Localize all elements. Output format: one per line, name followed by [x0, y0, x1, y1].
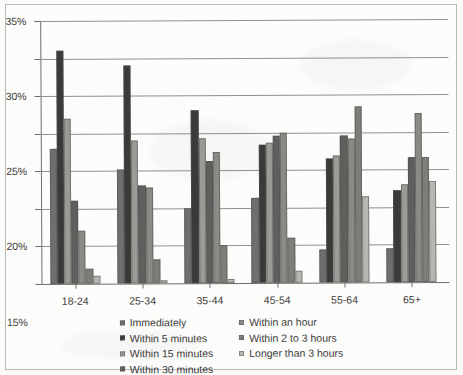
legend-label: Within 2 to 3 hours: [249, 331, 337, 343]
legend-label: Within an hour: [249, 316, 317, 328]
bar-group-65plus: 65+: [377, 19, 446, 282]
bar: [153, 259, 160, 283]
x-axis-label: 25-34: [129, 294, 156, 306]
legend-label: Immediately: [130, 316, 187, 328]
legend-item: Within an hour: [239, 316, 343, 328]
x-axis-label: 65+: [403, 293, 421, 305]
bar: [220, 245, 227, 283]
bar: [429, 181, 437, 282]
bar-group-55-64: 55-64: [310, 19, 379, 282]
bar: [160, 280, 167, 283]
bar: [280, 132, 288, 282]
bar: [362, 197, 370, 283]
legend-label: Within 30 minutes: [130, 363, 213, 375]
chart-legend: ImmediatelyWithin 5 minutesWithin 15 min…: [0, 315, 463, 375]
legend-item: Longer than 3 hours: [239, 347, 343, 359]
legend-swatch-icon: [120, 366, 125, 371]
x-axis-tick: [412, 282, 413, 287]
bar: [354, 107, 362, 283]
bar-group-25-34: 25-34: [108, 20, 177, 283]
bar: [295, 271, 302, 283]
chart-plot-wrapper: 0%5%10%15%20%25%30%35% 18-2425-3435-4445…: [0, 0, 463, 311]
bar-groups: 18-2425-3435-4445-5455-6465+: [40, 19, 445, 284]
legend-swatch-icon: [239, 319, 244, 324]
legend-item: Immediately: [120, 316, 213, 328]
legend-item: Within 2 to 3 hours: [239, 331, 343, 343]
x-axis-tick: [75, 284, 76, 289]
bar: [213, 152, 221, 284]
legend-label: Within 15 minutes: [130, 347, 213, 359]
legend-swatch-icon: [120, 351, 125, 356]
x-axis-tick: [344, 282, 345, 287]
y-axis-tick: 0%: [35, 284, 41, 285]
legend-column-2: Within an hourWithin 2 to 3 hoursLonger …: [239, 316, 343, 375]
y-axis-label: 35%: [5, 15, 26, 27]
x-axis-label: 55-64: [331, 293, 358, 305]
bar: [78, 231, 85, 284]
bar-group-45-54: 45-54: [242, 20, 311, 283]
chart-plot-area: 0%5%10%15%20%25%30%35% 18-2425-3435-4445…: [40, 19, 445, 284]
y-axis-label: 20%: [7, 240, 28, 252]
bar: [86, 269, 93, 284]
y-axis-label: 30%: [6, 90, 27, 102]
legend-label: Within 5 minutes: [130, 332, 208, 344]
bar: [228, 279, 235, 283]
y-axis-label: 25%: [6, 165, 27, 177]
legend-item: Within 30 minutes: [120, 363, 213, 375]
x-axis-label: 35-44: [196, 294, 223, 306]
bar-group-18-24: 18-24: [40, 21, 109, 284]
bar: [146, 187, 154, 283]
legend-swatch-icon: [239, 335, 244, 340]
legend-swatch-icon: [120, 320, 125, 325]
legend-swatch-icon: [239, 350, 244, 355]
legend-swatch-icon: [120, 335, 125, 340]
x-axis-label: 45-54: [264, 294, 291, 306]
legend-label: Longer than 3 hours: [249, 347, 343, 359]
bar: [288, 238, 295, 283]
bar-group-35-44: 35-44: [175, 20, 244, 283]
bar: [93, 275, 100, 283]
x-axis-label: 18-24: [62, 295, 89, 307]
legend-item: Within 15 minutes: [120, 347, 213, 359]
x-axis-tick: [277, 283, 278, 288]
legend-column-1: ImmediatelyWithin 5 minutesWithin 15 min…: [120, 316, 214, 375]
x-axis-tick: [210, 283, 211, 288]
legend-item: Within 5 minutes: [120, 332, 213, 344]
x-axis-tick: [142, 283, 143, 288]
